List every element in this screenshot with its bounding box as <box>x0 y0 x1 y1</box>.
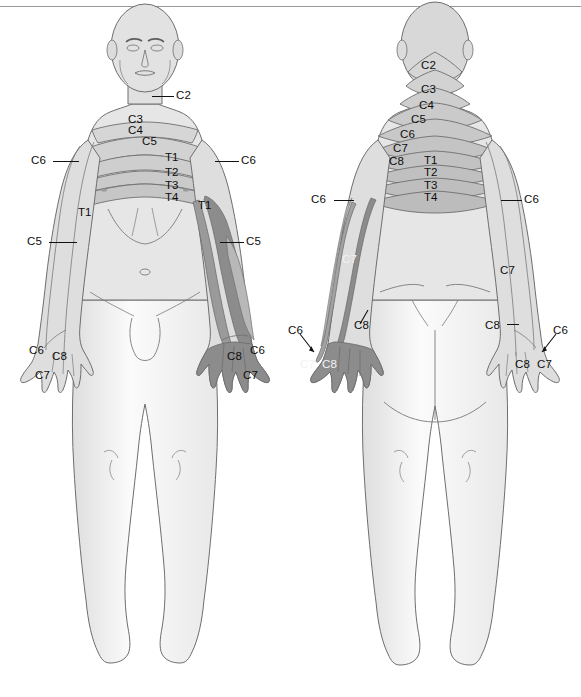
dermatome-label-ant-c8-lhand: C8 <box>52 351 67 363</box>
dermatome-label-ant-c6-rhand: C6 <box>250 345 265 357</box>
dermatome-label-pos-c7-rhand: C7 <box>537 359 552 371</box>
dermatome-label-ant-c6-lhand: C6 <box>29 345 44 357</box>
dermatome-label-pos-c4: C4 <box>419 100 434 112</box>
dermatome-figure: C2C3C4C5C6C6T1T2T3T4T1T1C5C5C6C8C7C8C6C7… <box>0 0 581 697</box>
dermatome-label-ant-c6-left: C6 <box>31 155 46 167</box>
dermatome-label-ant-t1-right: T1 <box>198 200 212 212</box>
dermatome-label-pos-t1: T1 <box>424 155 438 167</box>
dermatome-label-ant-c5-left: C5 <box>27 236 42 248</box>
anterior-silhouette <box>72 4 217 663</box>
dermatome-label-pos-t3: T3 <box>424 180 438 192</box>
dermatome-label-pos-c8-neck: C8 <box>389 156 404 168</box>
dermatome-label-pos-c6-left: C6 <box>311 194 326 206</box>
leader-line-ant-c6-right <box>215 161 239 162</box>
dermatome-label-pos-c7-rarm: C7 <box>500 265 515 277</box>
dermatome-label-pos-c7-neck: C7 <box>393 143 408 155</box>
dermatome-label-pos-c6-lhand: C6 <box>288 325 303 337</box>
dermatome-label-pos-t4: T4 <box>424 192 438 204</box>
dermatome-label-ant-t4-chest: T4 <box>165 192 179 204</box>
posterior-left-arm-highlighted <box>300 140 390 392</box>
dermatome-label-ant-t3-chest: T3 <box>165 180 179 192</box>
dermatome-label-ant-c4: C4 <box>128 125 143 137</box>
dermatome-label-ant-t1-left: T1 <box>78 207 92 219</box>
dermatome-label-pos-c6-neck: C6 <box>400 129 415 141</box>
dermatome-label-pos-c5: C5 <box>411 114 426 126</box>
dermatome-label-ant-c7-rhand: C7 <box>243 370 258 382</box>
dermatome-label-ant-c5-right: C5 <box>246 236 261 248</box>
posterior-right-arm <box>480 140 559 392</box>
dermatome-label-pos-c2: C2 <box>421 60 436 72</box>
leader-line-pos-c6-left <box>334 200 354 201</box>
dermatome-label-pos-c8-larm: C8 <box>354 320 369 332</box>
dermatome-label-pos-c7-lhand: C7 <box>300 359 315 371</box>
dermatome-label-pos-c6-right: C6 <box>524 194 539 206</box>
dermatome-label-pos-c6-rhand: C6 <box>553 325 568 337</box>
dermatome-label-ant-c6-right: C6 <box>241 155 256 167</box>
leader-line-ant-c6-left <box>53 161 79 162</box>
dermatome-label-ant-t1-chest: T1 <box>165 152 179 164</box>
dermatome-label-ant-c5-mid: C5 <box>142 136 157 148</box>
leader-line-ant-c5-left <box>49 242 77 243</box>
dermatome-label-pos-c8-lhand: C8 <box>322 359 337 371</box>
dermatome-label-ant-t2-chest: T2 <box>165 167 179 179</box>
dermatome-label-pos-c3: C3 <box>421 84 436 96</box>
dermatome-label-ant-c7-lhand: C7 <box>35 370 50 382</box>
dermatome-label-ant-c2: C2 <box>176 90 191 102</box>
anterior-body-illustration <box>0 0 581 697</box>
leader-line-ant-c2 <box>152 96 174 97</box>
dermatome-label-pos-t2: T2 <box>424 167 438 179</box>
leader-line-pos-c8-rarm <box>507 324 519 325</box>
leader-line-pos-c6-right <box>501 200 522 201</box>
dermatome-label-pos-c8-rhand: C8 <box>515 359 530 371</box>
top-divider-rule <box>0 6 581 7</box>
dermatome-label-ant-c8-rhand: C8 <box>227 351 242 363</box>
leader-line-ant-c5-right <box>220 242 244 243</box>
dermatome-label-pos-c7-larm: C7 <box>342 254 357 266</box>
dermatome-label-pos-c8-rarm: C8 <box>485 320 500 332</box>
posterior-silhouette <box>362 2 507 665</box>
